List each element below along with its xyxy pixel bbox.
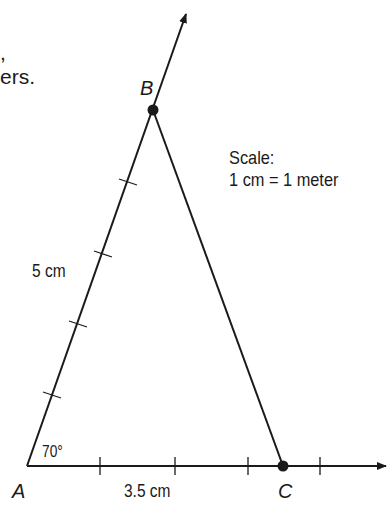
scale-title: Scale: (229, 148, 274, 167)
point-C-label: C (278, 481, 292, 501)
angle-A-label: 70° (42, 444, 63, 460)
triangle-construction-diagram: , ers. B A (0, 0, 388, 518)
scale-ratio-wrap: 1 cm = 1 meter (229, 170, 356, 189)
scale-legend: Scale: (229, 148, 282, 167)
side-AC-length-label: 3.5 cm (124, 482, 170, 500)
point-B-dot (148, 105, 159, 116)
point-C-dot (278, 461, 289, 472)
scale-ratio: 1 cm = 1 meter (229, 170, 338, 189)
side-AB-length-label: 5 cm (32, 262, 66, 280)
geometry-figure (0, 0, 388, 518)
point-A-label: A (12, 481, 25, 501)
point-B-label: B (140, 78, 153, 98)
ray-AB (27, 14, 186, 466)
